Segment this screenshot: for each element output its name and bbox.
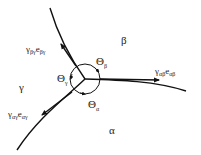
vector-label-alpha-beta: γαβeαβ xyxy=(154,66,175,77)
phase-label-alpha: α xyxy=(109,124,115,136)
triple-junction-diagram: β γ α Θβ Θγ Θα γβγeβγ γαγeαγ γαβeαβ xyxy=(0,0,201,155)
vector-beta-gamma xyxy=(61,44,76,66)
vector-alpha-gamma xyxy=(42,92,72,115)
vector-alpha-beta xyxy=(100,79,159,80)
vector-label-beta-gamma: γβγeβγ xyxy=(25,44,46,55)
boundary-beta-gamma xyxy=(50,8,85,79)
phase-label-gamma: γ xyxy=(18,81,24,93)
vector-label-alpha-gamma: γαγeαγ xyxy=(7,109,28,120)
angle-arrow-beta xyxy=(95,68,98,71)
phase-label-beta: β xyxy=(121,34,127,46)
angle-label-theta-gamma: Θγ xyxy=(57,72,68,86)
angle-label-theta-beta: Θβ xyxy=(96,55,107,69)
angle-label-theta-alpha: Θα xyxy=(88,98,100,112)
